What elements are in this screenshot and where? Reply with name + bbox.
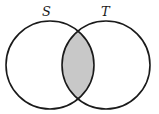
set-s-label: S <box>42 4 51 19</box>
set-t-label: T <box>101 4 111 19</box>
venn-diagram: S T <box>0 0 159 114</box>
